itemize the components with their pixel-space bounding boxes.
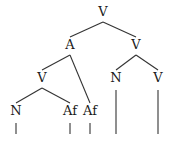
tree-node-vl: V — [36, 70, 47, 85]
tree-node-af2: Af — [82, 103, 98, 118]
tree-edge-vl-af1 — [42, 88, 70, 103]
tree-node-v2: V — [152, 70, 163, 85]
tree-node-a: A — [64, 37, 75, 52]
tree-node-n2: N — [110, 70, 121, 85]
tree-edge-vl-n1 — [16, 88, 42, 103]
tree-node-n1: N — [10, 103, 21, 118]
tree-edge-root-a — [70, 22, 103, 37]
tree-node-root: V — [97, 4, 108, 19]
tree-edge-vr-v2 — [136, 55, 158, 70]
tree-node-af1: Af — [62, 103, 78, 118]
tree-edge-vr-n2 — [116, 55, 136, 70]
tree-edge-a-vl — [42, 55, 70, 70]
syntax-tree: VAVVNAfAfNV — [0, 0, 176, 145]
tree-node-vr: V — [130, 37, 141, 52]
tree-edge-root-vr — [103, 22, 136, 37]
tree-edge-a-af2 — [70, 55, 90, 103]
